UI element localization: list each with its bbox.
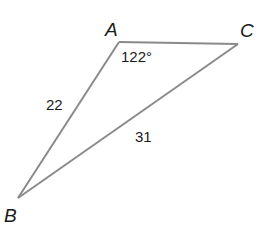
vertex-label-a: A [104, 19, 118, 40]
side-ac [119, 42, 238, 44]
triangle-diagram: A B C 22 31 122° [0, 0, 258, 228]
vertex-label-c: C [240, 20, 254, 41]
side-bc-length-label: 31 [135, 128, 152, 145]
side-ab [18, 42, 119, 198]
vertex-label-b: B [4, 205, 17, 226]
side-bc [18, 44, 238, 198]
side-ab-length-label: 22 [46, 96, 63, 113]
angle-a-label: 122° [121, 48, 152, 65]
